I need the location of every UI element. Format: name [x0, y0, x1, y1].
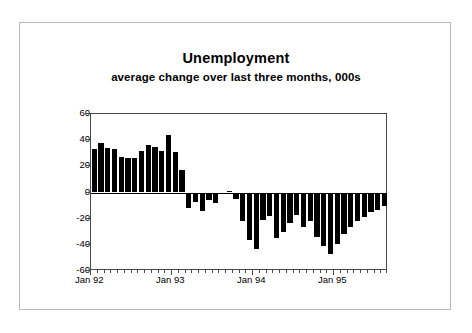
x-tick-mark: [374, 270, 375, 273]
x-tick-mark: [360, 270, 361, 273]
bar: [382, 193, 387, 206]
x-tick-mark: [151, 270, 152, 273]
bar: [179, 170, 184, 192]
x-tick-mark: [124, 270, 125, 273]
x-tick-mark: [218, 270, 219, 273]
x-tick-mark: [104, 270, 105, 273]
y-axis: 6040200-20-40-60: [56, 113, 90, 270]
x-tick-mark: [178, 270, 179, 273]
x-tick-mark: [266, 270, 267, 273]
bar: [105, 148, 110, 192]
bar: [139, 151, 144, 193]
bar: [119, 157, 124, 192]
x-tick-mark: [367, 270, 368, 273]
bar: [240, 193, 245, 222]
x-tick-mark: [313, 270, 314, 273]
bar: [166, 135, 171, 193]
x-tick-mark: [347, 270, 348, 273]
x-tick-mark: [198, 270, 199, 273]
bar: [92, 149, 97, 192]
bar: [287, 193, 292, 223]
bar: [200, 193, 205, 211]
x-tick-mark: [131, 270, 132, 273]
x-tick-mark: [110, 270, 111, 273]
bar: [159, 151, 164, 193]
bar: [152, 147, 157, 193]
x-tick-mark: [137, 270, 138, 273]
bar: [98, 143, 103, 193]
x-tick-mark: [306, 270, 307, 273]
x-tick-mark: [326, 270, 327, 273]
x-tick-mark: [320, 270, 321, 273]
x-tick-mark: [245, 270, 246, 273]
x-axis: Jan 92Jan 93Jan 94Jan 95: [90, 270, 387, 292]
bar: [321, 193, 326, 247]
bar: [247, 193, 252, 240]
bar: [213, 193, 218, 203]
bar: [308, 193, 313, 222]
bar: [362, 193, 367, 218]
bar: [193, 193, 198, 202]
x-tick-mark: [225, 270, 226, 273]
bar: [186, 193, 191, 209]
bar: [301, 193, 306, 227]
bar: [341, 193, 346, 235]
bar: [335, 193, 340, 244]
x-tick-mark: [144, 270, 145, 273]
x-tick-mark: [185, 270, 186, 273]
x-tick-mark: [340, 270, 341, 273]
x-tick-mark: [117, 270, 118, 273]
bar: [112, 149, 117, 192]
x-tick-mark: [205, 270, 206, 273]
x-tick-mark: [164, 270, 165, 273]
zero-baseline: [91, 193, 386, 194]
bar: [254, 193, 259, 249]
bar: [328, 193, 333, 254]
x-tick-mark: [299, 270, 300, 273]
x-axis-label: Jan 92: [75, 274, 104, 285]
bar: [314, 193, 319, 237]
bar: [368, 193, 373, 213]
x-tick-mark: [259, 270, 260, 273]
x-tick-mark: [293, 270, 294, 273]
bar: [125, 158, 130, 192]
plot-area: [90, 113, 387, 270]
bar: [206, 193, 211, 201]
x-tick-mark: [212, 270, 213, 273]
x-tick-mark: [239, 270, 240, 273]
chart-title: Unemployment: [0, 50, 472, 66]
bar: [281, 193, 286, 232]
chart-subtitle: average change over last three months, 0…: [0, 70, 472, 84]
x-tick-mark: [286, 270, 287, 273]
bar: [260, 193, 265, 220]
bar: [294, 193, 299, 215]
bar: [132, 158, 137, 192]
x-tick-mark: [279, 270, 280, 273]
x-tick-mark: [386, 270, 387, 273]
bar: [355, 193, 360, 222]
x-tick-mark: [380, 270, 381, 273]
x-tick-mark: [232, 270, 233, 273]
title-block: Unemployment average change over last th…: [0, 50, 472, 84]
x-tick-mark: [158, 270, 159, 273]
x-axis-label: Jan 93: [156, 274, 185, 285]
x-tick-mark: [272, 270, 273, 273]
bar: [146, 145, 151, 192]
bar: [274, 193, 279, 239]
bar: [375, 193, 380, 210]
bars-container: [91, 114, 386, 269]
x-tick-mark: [191, 270, 192, 273]
bar: [267, 193, 272, 217]
x-tick-mark: [97, 270, 98, 273]
bar: [348, 193, 353, 227]
x-axis-label: Jan 95: [318, 274, 347, 285]
x-tick-mark: [353, 270, 354, 273]
x-axis-label: Jan 94: [237, 274, 266, 285]
bar: [173, 152, 178, 193]
chart-figure: Unemployment average change over last th…: [0, 0, 472, 333]
